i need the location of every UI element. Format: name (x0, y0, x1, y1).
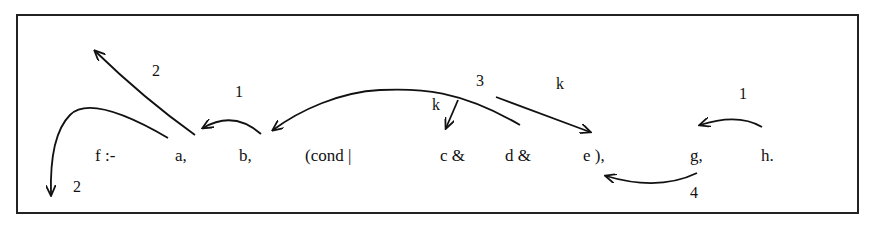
arrow-b-to-a (203, 120, 261, 134)
term-h: h. (761, 146, 774, 166)
label-1-hg: 1 (739, 85, 747, 103)
label-2-bottom: 2 (73, 178, 81, 196)
execution-order-diagram: f :- a, b, (cond | c & d & e ), g, h. 2 … (0, 0, 873, 226)
arrow-a-to-top (95, 51, 195, 135)
label-1-ab: 1 (235, 83, 243, 101)
arrow-d-to-b (273, 89, 520, 130)
label-3: 3 (476, 72, 484, 90)
label-2-top: 2 (152, 62, 160, 80)
term-c: c & (440, 146, 465, 166)
term-g: g, (690, 146, 703, 166)
arrow-to-e (496, 97, 590, 132)
term-a: a, (175, 146, 187, 166)
term-e: e ), (583, 146, 605, 166)
label-k-c: k (432, 96, 440, 114)
label-k-e: k (556, 75, 564, 93)
term-cond: (cond | (305, 146, 351, 166)
term-d: d & (505, 146, 531, 166)
arrow-h-to-g (700, 119, 762, 127)
arrow-g-to-e (606, 173, 697, 183)
term-b: b, (239, 146, 252, 166)
term-f: f :- (95, 146, 115, 166)
label-4: 4 (690, 184, 698, 202)
arrow-to-c (446, 100, 458, 128)
